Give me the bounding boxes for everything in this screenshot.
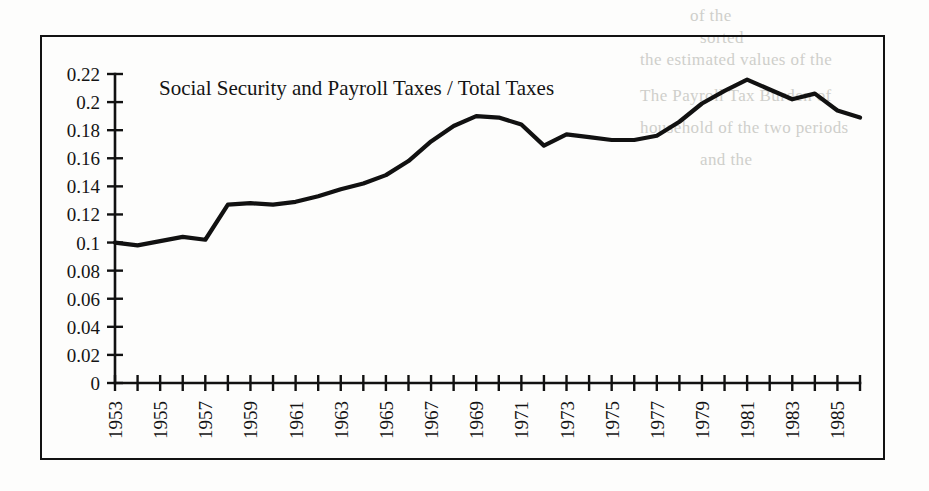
y-tick-label: 0.1 (76, 233, 100, 254)
x-tick-label: 1983 (782, 401, 803, 439)
x-tick-label: 1963 (331, 401, 352, 439)
y-tick-label: 0.2 (76, 92, 100, 113)
chart-title: Social Security and Payroll Taxes / Tota… (159, 76, 554, 100)
x-tick-label: 1971 (511, 401, 532, 439)
y-tick-label: 0.12 (67, 204, 100, 225)
scanned-page-background: of thesortedthe estimated values of theT… (0, 0, 929, 491)
y-tick-label: 0.16 (67, 148, 100, 169)
figure-frame: 00.020.040.060.080.10.120.140.160.180.20… (40, 35, 885, 460)
y-tick-label: 0.18 (67, 120, 100, 141)
x-tick-label: 1957 (195, 401, 216, 439)
x-tick-label: 1985 (827, 401, 848, 439)
x-tick-label: 1977 (647, 401, 668, 439)
series-line (115, 80, 860, 246)
y-axis: 00.020.040.060.080.10.120.140.160.180.20… (67, 64, 123, 394)
x-tick-label: 1953 (105, 401, 126, 439)
y-tick-label: 0 (91, 373, 101, 394)
y-tick-label: 0.06 (67, 289, 100, 310)
x-tick-label: 1961 (286, 401, 307, 439)
chart-title-text: Social Security and Payroll Taxes / Tota… (159, 76, 554, 100)
data-series (115, 80, 860, 246)
line-chart: 00.020.040.060.080.10.120.140.160.180.20… (42, 37, 883, 458)
x-axis: 1953195519571959196119631965196719691971… (105, 375, 860, 439)
x-tick-label: 1967 (421, 401, 442, 439)
y-tick-label: 0.08 (67, 261, 100, 282)
x-tick-label: 1959 (240, 401, 261, 439)
y-tick-label: 0.04 (67, 317, 101, 338)
x-tick-label: 1969 (466, 401, 487, 439)
y-tick-label: 0.14 (67, 176, 101, 197)
y-tick-label: 0.22 (67, 64, 100, 85)
ghost-text-line: of the (690, 6, 732, 26)
x-tick-label: 1955 (150, 401, 171, 439)
y-tick-label: 0.02 (67, 345, 100, 366)
x-tick-label: 1979 (692, 401, 713, 439)
x-tick-label: 1975 (602, 401, 623, 439)
x-tick-label: 1981 (737, 401, 758, 439)
x-tick-label: 1965 (376, 401, 397, 439)
x-tick-label: 1973 (557, 401, 578, 439)
